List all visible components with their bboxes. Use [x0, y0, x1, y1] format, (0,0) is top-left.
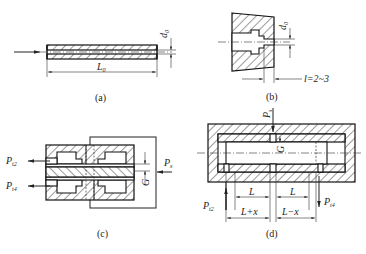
outlet-bottom-label: Pt4	[5, 180, 17, 192]
panel-a-capillary-tube: d0 L0 (a)	[14, 30, 176, 104]
left-length-label: L	[248, 186, 255, 197]
tube-wall-bottom	[47, 54, 157, 59]
outlet-left-label: Pt2	[202, 200, 214, 212]
gap-label-d: G	[275, 146, 286, 153]
right-disp-label: L−x	[281, 206, 299, 217]
right-length-label: L	[289, 186, 296, 197]
panel-b-orifice: d0 l=2~3 (b)	[218, 13, 329, 103]
gap-label-c: G	[140, 179, 151, 186]
diameter-label-b: d0	[277, 22, 289, 30]
length-label: L0	[96, 61, 106, 73]
left-disp-label: L+x	[240, 206, 258, 217]
outlet-top-label: Pt2	[5, 155, 17, 167]
tube-wall-top	[47, 45, 157, 50]
inlet-label-d: Ps	[261, 109, 273, 119]
length-eq-label: l=2~3	[304, 73, 329, 84]
caption-b: (b)	[266, 91, 278, 103]
diameter-label: d0	[158, 30, 170, 38]
panel-c-annular-restrictor: Pt2 Pt4 Ps G (c)	[5, 137, 173, 240]
caption-d: (d)	[266, 228, 278, 240]
panel-d-sliding-restrictor: Ps G L L L+x L−x Pt2 Pt4 (d)	[197, 108, 362, 240]
figure-canvas: d0 L0 (a) d0 l=2~3 (b)	[0, 0, 366, 254]
caption-c: (c)	[97, 228, 108, 240]
inlet-label-c: Ps	[163, 157, 173, 169]
outlet-right-label: Pt4	[323, 196, 335, 208]
caption-a: (a)	[95, 92, 106, 104]
